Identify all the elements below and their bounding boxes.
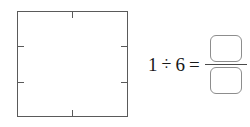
- denominator-answer-box[interactable]: [210, 67, 242, 94]
- tick-mark-right-lower: [121, 82, 128, 83]
- tick-mark-top-center: [72, 11, 73, 18]
- numerator-answer-box[interactable]: [210, 35, 242, 62]
- equation-divisor: 6: [175, 55, 185, 74]
- division-operator-icon: ÷: [162, 55, 172, 73]
- tick-mark-right-upper: [121, 46, 128, 47]
- tick-mark-left-lower: [17, 82, 24, 83]
- square-outline: [17, 11, 128, 117]
- tick-mark-bottom-center: [72, 110, 73, 117]
- equation-dividend: 1: [148, 55, 158, 74]
- tick-mark-left-upper: [17, 46, 24, 47]
- fraction-bar: [205, 64, 247, 65]
- equals-sign: =: [189, 55, 200, 74]
- equation: 1 ÷ 6 =: [148, 24, 247, 104]
- answer-fraction: [205, 35, 247, 94]
- shape-figure: [17, 11, 128, 117]
- worksheet-item: 1 ÷ 6 =: [0, 0, 250, 127]
